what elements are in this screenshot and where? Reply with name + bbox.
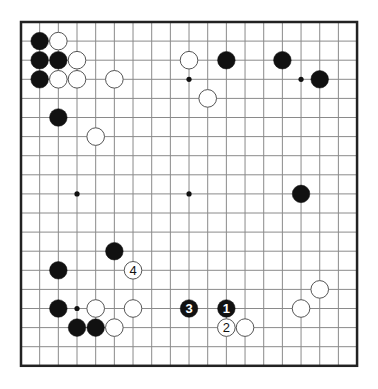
black-stone[interactable]	[311, 71, 329, 89]
white-stone[interactable]	[68, 71, 86, 89]
black-stone[interactable]	[31, 32, 49, 50]
white-stone[interactable]	[87, 300, 105, 318]
white-stone-icon	[50, 71, 68, 89]
black-stone-icon	[50, 51, 68, 69]
black-stone-icon	[274, 51, 292, 69]
white-stone[interactable]: 4	[124, 262, 142, 280]
black-stone[interactable]	[50, 300, 68, 318]
black-stone[interactable]	[274, 51, 292, 69]
black-stone-icon	[31, 51, 49, 69]
white-stone[interactable]	[292, 300, 310, 318]
black-stone-icon	[50, 109, 68, 127]
black-stone[interactable]	[218, 51, 236, 69]
black-stone-icon	[292, 185, 310, 203]
white-stone[interactable]	[50, 32, 68, 50]
white-stone-icon	[124, 300, 142, 318]
white-stone-icon	[236, 319, 254, 337]
black-stone[interactable]	[50, 51, 68, 69]
move-number-label: 4	[129, 263, 136, 278]
star-point-icon	[74, 191, 79, 196]
go-board-canvas[interactable]: 4312	[0, 0, 378, 389]
white-stone[interactable]	[50, 71, 68, 89]
star-point-icon	[186, 77, 191, 82]
black-stone-icon	[87, 319, 105, 337]
white-stone-icon	[68, 71, 86, 89]
star-point-icon	[74, 306, 79, 311]
white-stone-icon	[87, 128, 105, 146]
black-stone[interactable]	[31, 51, 49, 69]
black-stone-icon	[31, 71, 49, 89]
stones-layer: 4312	[31, 32, 329, 336]
black-stone[interactable]	[292, 185, 310, 203]
black-stone[interactable]	[50, 262, 68, 280]
white-stone-icon	[311, 281, 329, 299]
black-stone-icon	[31, 32, 49, 50]
white-stone-icon	[199, 90, 217, 108]
black-stone-icon	[68, 319, 86, 337]
black-stone-icon	[218, 51, 236, 69]
white-stone-icon	[87, 300, 105, 318]
white-stone[interactable]	[236, 319, 254, 337]
black-stone[interactable]	[50, 109, 68, 127]
black-stone-icon	[50, 262, 68, 280]
white-stone[interactable]	[199, 90, 217, 108]
white-stone-icon	[68, 51, 86, 69]
white-stone[interactable]	[106, 71, 124, 89]
black-stone[interactable]	[106, 242, 124, 260]
black-stone-icon	[106, 242, 124, 260]
white-stone[interactable]	[87, 128, 105, 146]
white-stone-icon	[180, 51, 198, 69]
white-stone[interactable]	[106, 319, 124, 337]
black-stone[interactable]	[68, 319, 86, 337]
move-number-label: 2	[223, 320, 230, 335]
white-stone[interactable]	[124, 300, 142, 318]
star-point-icon	[298, 77, 303, 82]
white-stone-icon	[106, 319, 124, 337]
white-stone[interactable]	[311, 281, 329, 299]
white-stone[interactable]	[68, 51, 86, 69]
black-stone-icon	[311, 71, 329, 89]
black-stone[interactable]	[31, 71, 49, 89]
black-stone[interactable]: 3	[180, 300, 198, 318]
white-stone-icon	[106, 71, 124, 89]
white-stone-icon	[50, 32, 68, 50]
move-number-label: 3	[185, 301, 192, 316]
black-stone[interactable]: 1	[218, 300, 236, 318]
white-stone-icon	[292, 300, 310, 318]
white-stone[interactable]: 2	[218, 319, 236, 337]
go-board[interactable]: 4312	[0, 0, 378, 389]
black-stone-icon	[50, 300, 68, 318]
white-stone[interactable]	[180, 51, 198, 69]
black-stone[interactable]	[87, 319, 105, 337]
star-point-icon	[186, 191, 191, 196]
move-number-label: 1	[223, 301, 230, 316]
